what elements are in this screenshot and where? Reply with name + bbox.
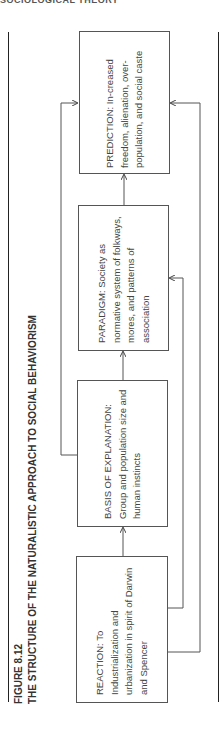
reaction-box: REACTION: To Industrialization and urban…	[76, 556, 168, 703]
prediction-box: PREDICTION: In-creased freedom, alienati…	[79, 31, 170, 174]
prediction-text: PREDICTION: In-creased freedom, alienati…	[103, 38, 147, 168]
basis-of-explanation-box: BASIS OF EXPLANATION: Group and populati…	[77, 380, 168, 527]
paradigm-text: PARADIGM: Society as normative system of…	[95, 213, 153, 343]
paradigm-box: PARADIGM: Society as normative system of…	[78, 205, 169, 351]
basis-of-explanation-text: BASIS OF EXPLANATION: Group and populati…	[101, 389, 145, 519]
reaction-text: REACTION: To Industrialization and urban…	[93, 565, 151, 695]
